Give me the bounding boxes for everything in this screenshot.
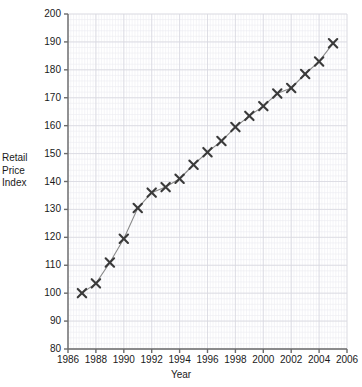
y-tick-label: 90 <box>31 316 61 326</box>
y-tick-label: 180 <box>31 65 61 75</box>
y-tick-label: 110 <box>31 260 61 270</box>
y-tick-label: 200 <box>31 9 61 19</box>
y-tick-label: 150 <box>31 149 61 159</box>
plot-area <box>0 0 362 387</box>
y-tick-label: 140 <box>31 177 61 187</box>
axis-ticks <box>64 14 347 353</box>
y-tick-label: 160 <box>31 121 61 131</box>
y-tick-label: 80 <box>31 344 61 354</box>
retail-price-index-chart: Retail Price Index Year 8090100110120130… <box>0 0 362 387</box>
y-tick-label: 100 <box>31 288 61 298</box>
y-tick-label: 170 <box>31 93 61 103</box>
y-tick-label: 120 <box>31 232 61 242</box>
y-tick-label: 130 <box>31 204 61 214</box>
y-tick-label: 190 <box>31 37 61 47</box>
x-tick-label: 2006 <box>327 355 362 365</box>
